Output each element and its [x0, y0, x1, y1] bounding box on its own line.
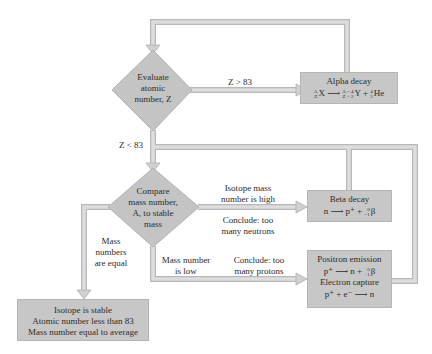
label-equal-2: numbers — [88, 247, 134, 258]
label-protons-1: Conclude: too — [226, 255, 292, 266]
positron-capture-box: Positron emission p⁺ ⟶ n + 0+1β Electron… — [307, 250, 392, 308]
stable-line-1: Isotope is stable — [18, 305, 148, 316]
evaluate-line-2: atomic — [118, 83, 188, 94]
reaction-arrow-icon: ⟶ — [327, 88, 340, 98]
positron-emission-title: Positron emission — [308, 254, 391, 265]
stable-line-2: Atomic number less than 83 — [18, 316, 148, 327]
evaluate-decision: Evaluate atomic number, Z — [118, 72, 188, 105]
label-equal-1: Mass — [88, 236, 134, 247]
label-too-many-protons: Conclude: too many protons — [226, 255, 292, 277]
electron-capture-title: Electron capture — [308, 277, 391, 288]
label-low-2: is low — [156, 266, 216, 277]
alpha-decay-title: Alpha decay — [301, 76, 397, 87]
label-mass-high-1: Isotope mass — [212, 183, 284, 194]
label-low-1: Mass number — [156, 255, 216, 266]
label-mass-low: Mass number is low — [156, 255, 216, 277]
compare-decision: Compare mass number, A, to stable mass — [113, 186, 193, 230]
isotope-stable-box: Isotope is stable Atomic number less tha… — [17, 299, 149, 341]
positron-emission-equation: p⁺ ⟶ n + 0+1β — [308, 265, 391, 277]
label-mass-equal: Mass numbers are equal — [88, 236, 134, 269]
alpha-x-nuclide: AZ — [314, 89, 318, 99]
beta-decay-title: Beta decay — [308, 194, 391, 205]
alpha-decay-equation: AZX ⟶ A − 4Z − 2Y + 42He — [301, 87, 397, 99]
compare-line-3: A, to stable — [113, 208, 193, 219]
alpha-y-nuclide: A − 4Z − 2 — [342, 89, 353, 99]
label-mass-high: Isotope mass number is high — [212, 183, 284, 205]
compare-line-1: Compare — [113, 186, 193, 197]
evaluate-line-1: Evaluate — [118, 72, 188, 83]
label-protons-2: many protons — [226, 266, 292, 277]
label-equal-3: are equal — [88, 258, 134, 269]
arrow-into-stable — [77, 290, 91, 299]
alpha-he-nuclide: 42 — [370, 89, 373, 99]
evaluate-line-3: number, Z — [118, 94, 188, 105]
electron-capture-equation: p⁺ + e⁻ ⟶ n — [308, 288, 391, 300]
compare-line-4: mass — [113, 219, 193, 230]
arrow-into-positron — [296, 273, 307, 285]
label-mass-high-2: number is high — [212, 194, 284, 205]
label-too-many-neutrons: Conclude: too many neutrons — [212, 215, 284, 237]
label-z-less-83: Z < 83 — [119, 140, 143, 151]
label-neutrons-1: Conclude: too — [212, 215, 284, 226]
label-neutrons-2: many neutrons — [212, 226, 284, 237]
stable-line-3: Mass number equal to average — [18, 327, 148, 338]
positron-particle-nuclide: 0+1 — [364, 267, 369, 277]
label-z-greater-83: Z > 83 — [228, 77, 252, 88]
beta-decay-equation: n ⟶ p⁺ + 0−1β — [308, 205, 391, 217]
arrow-into-beta — [296, 201, 307, 213]
compare-line-2: mass number, — [113, 197, 193, 208]
beta-decay-box: Beta decay n ⟶ p⁺ + 0−1β — [307, 190, 392, 222]
alpha-decay-box: Alpha decay AZX ⟶ A − 4Z − 2Y + 42He — [300, 72, 398, 104]
beta-particle-nuclide: 0−1 — [364, 207, 369, 217]
